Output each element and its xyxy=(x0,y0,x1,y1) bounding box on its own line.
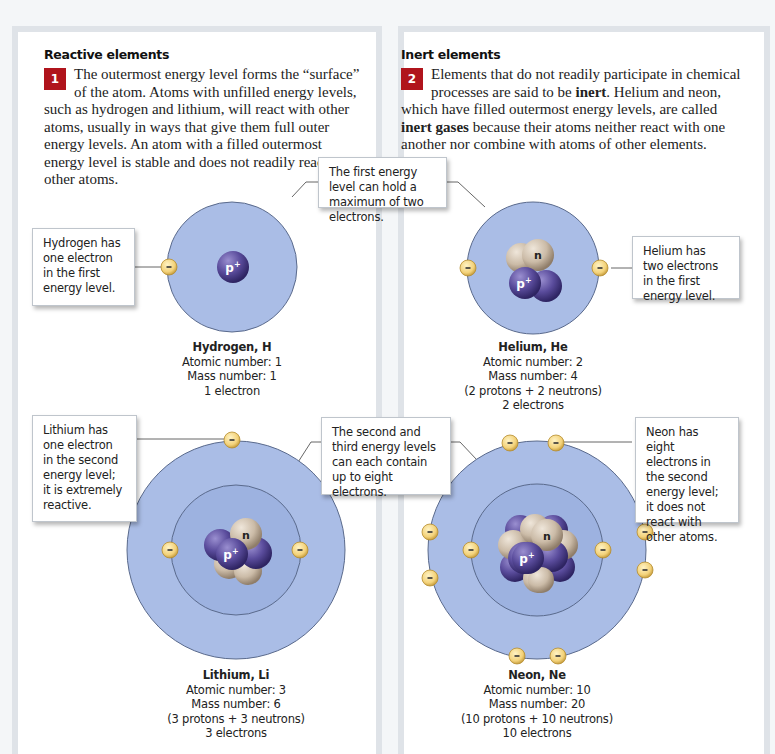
lithium-composition: (3 protons + 3 neutrons) xyxy=(156,712,316,727)
first-level-leader-left xyxy=(292,182,318,197)
lithium-atomic-number: Atomic number: 3 xyxy=(156,683,316,698)
neon-atom: n p+ xyxy=(422,435,653,664)
neon-composition: (10 protons + 10 neutrons) xyxy=(447,712,627,727)
helium-composition: (2 protons + 2 neutrons) xyxy=(453,384,613,399)
helium-atom: n p+ xyxy=(460,202,608,334)
svg-text:n: n xyxy=(534,249,542,262)
lithium-callout: Lithium has one electron in the second e… xyxy=(32,415,137,522)
neon-callout: Neon has eight electrons in the second e… xyxy=(635,417,739,523)
neon-name: Neon, Ne xyxy=(447,668,627,683)
hydrogen-callout: Hydrogen has one electron in the first e… xyxy=(32,228,135,306)
first-level-callout: The first energy level can hold a maximu… xyxy=(318,157,447,208)
hydrogen-electrons: 1 electron xyxy=(172,384,292,399)
hydrogen-caption: Hydrogen, H Atomic number: 1 Mass number… xyxy=(172,340,292,398)
hydrogen-name: Hydrogen, H xyxy=(172,340,292,355)
hydrogen-atom: p+ xyxy=(161,202,297,332)
neon-electrons: 10 electrons xyxy=(447,726,627,741)
helium-callout: Helium has two electrons in the first en… xyxy=(632,236,740,299)
neon-caption: Neon, Ne Atomic number: 10 Mass number: … xyxy=(447,668,627,741)
svg-text:n: n xyxy=(242,529,250,542)
first-level-leader-right xyxy=(446,182,485,207)
helium-electrons: 2 electrons xyxy=(453,398,613,413)
neon-mass-number: Mass number: 20 xyxy=(447,697,627,712)
lithium-mass-number: Mass number: 6 xyxy=(156,697,316,712)
lithium-name: Lithium, Li xyxy=(156,668,316,683)
svg-text:n: n xyxy=(543,530,551,543)
helium-atomic-number: Atomic number: 2 xyxy=(453,355,613,370)
atom-diagrams: p+ n p+ n p+ xyxy=(0,0,775,754)
second-level-leader-right xyxy=(451,442,477,460)
hydrogen-atomic-number: Atomic number: 1 xyxy=(172,355,292,370)
lithium-caption: Lithium, Li Atomic number: 3 Mass number… xyxy=(156,668,316,741)
helium-caption: Helium, He Atomic number: 2 Mass number:… xyxy=(453,340,613,413)
neon-atomic-number: Atomic number: 10 xyxy=(447,683,627,698)
lithium-atom: n p+ xyxy=(127,432,345,659)
second-third-level-callout: The second and third energy levels can e… xyxy=(321,417,451,495)
helium-name: Helium, He xyxy=(453,340,613,355)
helium-mass-number: Mass number: 4 xyxy=(453,369,613,384)
lithium-electrons: 3 electrons xyxy=(156,726,316,741)
hydrogen-mass-number: Mass number: 1 xyxy=(172,369,292,384)
